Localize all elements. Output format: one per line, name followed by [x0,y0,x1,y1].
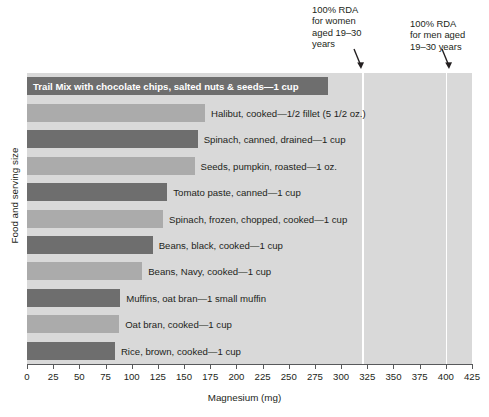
x-axis-tick [132,364,133,369]
x-axis-tick [236,364,237,369]
x-axis-tick [472,364,473,369]
bar-label: Spinach, canned, drained—1 cup [204,134,346,145]
men-rda-line [446,73,448,364]
bar [27,342,115,360]
x-axis-tick-label: 150 [176,371,192,382]
bar [27,104,205,122]
bar [27,289,120,307]
women-rda-annotation: 100% RDA for women aged 19–30 years [312,4,382,49]
x-axis-tick-label: 350 [385,371,401,382]
y-axis-title: Food and serving size [9,126,20,266]
x-axis-tick-label: 0 [24,371,29,382]
bar-label: Halibut, cooked—1/2 fillet (5 1/2 oz.) [211,108,366,119]
x-axis-tick [79,364,80,369]
bar [27,236,153,254]
bar [27,157,195,175]
x-axis-tick-label: 75 [100,371,111,382]
x-axis-tick [27,364,28,369]
x-axis-tick [420,364,421,369]
bar-label: Oat bran, cooked—1 cup [125,319,232,330]
x-axis-tick [210,364,211,369]
x-axis-tick-label: 200 [228,371,244,382]
x-axis-tick [393,364,394,369]
bar [27,183,167,201]
bar [27,130,198,148]
x-axis-tick-label: 175 [202,371,218,382]
bar [27,262,142,280]
x-axis-tick [446,364,447,369]
x-axis-tick-label: 50 [74,371,85,382]
x-axis-tick-label: 125 [150,371,166,382]
bar-label: Trail Mix with chocolate chips, salted n… [33,81,299,92]
x-axis-tick [289,364,290,369]
x-axis-tick-label: 225 [255,371,271,382]
bar [27,210,163,228]
x-axis-tick-label: 100 [124,371,140,382]
x-axis-tick-label: 425 [464,371,480,382]
bar-label: Tomato paste, canned—1 cup [173,187,300,198]
bar-label: Spinach, frozen, chopped, cooked—1 cup [169,214,347,225]
magnesium-bar-chart: 100% RDA for women aged 19–30 years 100%… [0,0,489,417]
bar-label: Beans, Navy, cooked—1 cup [148,266,271,277]
men-rda-annotation: 100% RDA for men aged 19–30 years [410,18,484,52]
bar-label: Muffins, oat bran—1 small muffin [126,293,266,304]
x-axis-tick [106,364,107,369]
x-axis-title: Magnesium (mg) [0,392,489,403]
x-axis-tick-label: 375 [412,371,428,382]
bar-label: Beans, black, cooked—1 cup [159,240,283,251]
men-rda-arrow-icon [440,48,454,70]
bar [27,315,119,333]
bar-label: Rice, brown, cooked—1 cup [121,346,241,357]
bar-label: Seeds, pumpkin, roasted—1 oz. [201,161,338,172]
x-axis-tick [263,364,264,369]
x-axis-tick-label: 300 [333,371,349,382]
x-axis-line [27,364,473,365]
x-axis-tick-label: 400 [438,371,454,382]
x-axis-tick [341,364,342,369]
x-axis-tick [158,364,159,369]
women-rda-arrow-icon [352,48,366,70]
x-axis-tick [367,364,368,369]
x-axis-tick-label: 325 [359,371,375,382]
x-axis-tick-label: 25 [48,371,59,382]
x-axis-tick-label: 250 [281,371,297,382]
x-axis-tick [53,364,54,369]
x-axis-tick [184,364,185,369]
x-axis-tick-label: 275 [307,371,323,382]
x-axis-tick [315,364,316,369]
